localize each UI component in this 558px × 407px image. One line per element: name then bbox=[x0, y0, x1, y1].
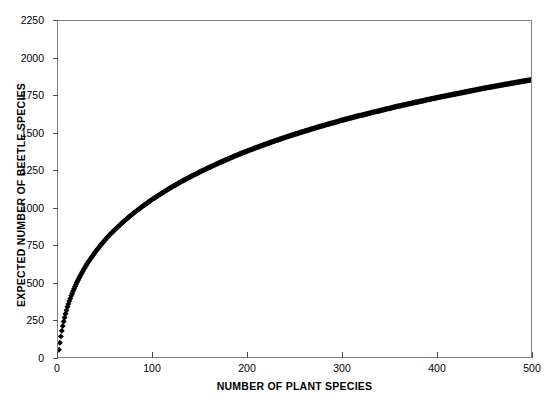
data-point bbox=[58, 333, 64, 339]
x-tick-mark bbox=[437, 352, 438, 358]
y-tick-label: 2000 bbox=[21, 53, 44, 63]
y-tick-mark bbox=[53, 283, 58, 284]
x-axis-title: NUMBER OF PLANT SPECIES bbox=[57, 380, 532, 392]
y-tick-mark bbox=[53, 170, 58, 171]
x-tick-label: 400 bbox=[428, 363, 446, 373]
x-tick-label: 100 bbox=[143, 363, 161, 373]
x-tick-label: 200 bbox=[238, 363, 256, 373]
x-tick-label: 500 bbox=[523, 363, 541, 373]
y-tick-mark bbox=[53, 208, 58, 209]
data-point bbox=[58, 340, 63, 346]
x-tick-mark bbox=[57, 352, 58, 358]
y-tick-mark bbox=[53, 58, 58, 59]
x-tick-mark bbox=[532, 352, 533, 358]
y-tick-mark bbox=[53, 20, 58, 21]
y-tick-label: 750 bbox=[26, 240, 44, 250]
y-tick-mark bbox=[53, 358, 58, 359]
plot-canvas bbox=[58, 21, 531, 357]
y-tick-label: 500 bbox=[26, 278, 44, 288]
plot-area bbox=[57, 20, 532, 358]
data-point bbox=[59, 328, 65, 334]
x-tick-label: 300 bbox=[333, 363, 351, 373]
data-series-markers bbox=[58, 77, 531, 353]
x-tick-mark bbox=[342, 352, 343, 358]
y-tick-label: 2250 bbox=[21, 15, 44, 25]
y-tick-mark bbox=[53, 95, 58, 96]
chart-figure: 0250500750100012501500175020002250 EXPEC… bbox=[0, 0, 558, 407]
y-tick-mark bbox=[53, 245, 58, 246]
x-tick-mark bbox=[152, 352, 153, 358]
y-tick-label: 0 bbox=[38, 353, 44, 363]
y-tick-label: 250 bbox=[26, 315, 44, 325]
x-tick-mark bbox=[247, 352, 248, 358]
data-point bbox=[58, 347, 62, 353]
y-tick-mark bbox=[53, 133, 58, 134]
y-tick-mark bbox=[53, 320, 58, 321]
data-point bbox=[60, 323, 66, 329]
y-axis-title: EXPECTED NUMBER OF BEETLE SPECIES bbox=[15, 75, 27, 315]
x-tick-label: 0 bbox=[54, 363, 60, 373]
